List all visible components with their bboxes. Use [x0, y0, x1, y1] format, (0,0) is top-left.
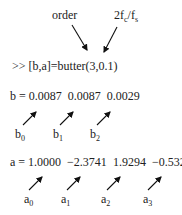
command-line: >> [b,a]=butter(3,0.1): [12, 59, 118, 73]
a3-arrow: [148, 177, 161, 190]
a-value: −0.5321: [152, 155, 182, 169]
a0-label: a0: [24, 192, 33, 206]
order-label: order: [52, 8, 77, 22]
b-coefficients: b = 0.0087 0.0087 0.0029: [10, 89, 140, 103]
b0-label: b0: [15, 127, 25, 141]
a0-arrow: [29, 177, 42, 190]
b1-label: b1: [53, 127, 63, 141]
b-value: 0.0087: [68, 89, 101, 103]
a-value: 1.9294: [113, 155, 146, 169]
a-value: −2.3741: [67, 155, 107, 169]
a1-arrow: [67, 177, 80, 190]
order-arrow: [72, 25, 87, 50]
a1-label: a1: [61, 192, 70, 206]
b0-arrow: [23, 112, 36, 125]
b-value: 0.0029: [107, 89, 140, 103]
a2-arrow: [107, 177, 120, 190]
a-value: 1.0000: [28, 155, 61, 169]
b1-arrow: [60, 112, 73, 125]
b-value: 0.0087: [29, 89, 62, 103]
b2-label: b2: [90, 127, 100, 141]
arrows-layer: [0, 0, 182, 215]
a-coefficients: a = 1.0000 −2.3741 1.9294 −0.5321: [10, 155, 182, 169]
ratio-arrow: [104, 27, 117, 52]
a3-label: a3: [143, 192, 152, 206]
b2-arrow: [97, 112, 110, 125]
ratio-label: 2fc/fs: [114, 8, 138, 22]
a2-label: a2: [101, 192, 110, 206]
